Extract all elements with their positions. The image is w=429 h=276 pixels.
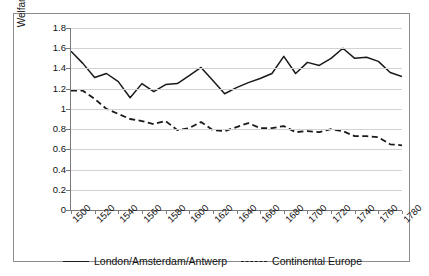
y-axis-tick-label: 0.2 [20, 185, 66, 194]
legend-label: Continental Europe [272, 255, 362, 267]
y-axis-tick-label: 0.8 [20, 124, 66, 133]
series-lines [71, 28, 402, 210]
gridline [71, 48, 402, 49]
legend-swatch [241, 261, 267, 262]
x-axis-tick-label: 1780 [401, 202, 424, 225]
y-axis-tick-label: 1 [20, 104, 66, 113]
plot-area [71, 28, 402, 210]
gridline [71, 190, 402, 191]
y-axis-tick-label: 0 [20, 205, 66, 214]
chart-plot-wrapper: 1.81.61.41.210.80.60.40.20 Welfare ratio… [14, 14, 411, 263]
gridline [71, 68, 402, 69]
gridline [71, 28, 402, 29]
x-axis-tick-mark [237, 211, 238, 214]
series-line [71, 91, 402, 146]
y-axis-tick-label: 0.4 [20, 165, 66, 174]
x-axis-tick-labels: 1500152015401560158016001620164016601680… [71, 211, 402, 251]
x-axis-tick-mark [166, 211, 167, 214]
legend-label: London/Amsterdam/Antwerp [94, 255, 227, 267]
y-axis-tick-label: 1.4 [20, 63, 66, 72]
legend-item: London/Amsterdam/Antwerp [63, 255, 227, 267]
y-axis-tick-label: 1.2 [20, 84, 66, 93]
legend-swatch [63, 261, 89, 262]
y-axis-title: Welfare ratio [16, 0, 27, 54]
gridline [71, 129, 402, 130]
gridline [71, 149, 402, 150]
chart-figure: 1.81.61.41.210.80.60.40.20 Welfare ratio… [13, 13, 410, 262]
legend-item: Continental Europe [241, 255, 362, 267]
y-axis-tick-label: 0.6 [20, 144, 66, 153]
chart-legend: London/Amsterdam/AntwerpContinental Euro… [14, 252, 411, 270]
series-line [71, 48, 402, 98]
gridline [71, 109, 402, 110]
gridline [71, 170, 402, 171]
gridline [71, 89, 402, 90]
